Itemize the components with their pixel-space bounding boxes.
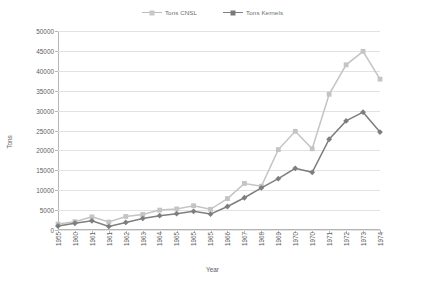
y-tick-label: 50000 xyxy=(6,28,54,35)
x-tick-label: 1970 xyxy=(309,232,316,246)
x-tick-label: 1955 xyxy=(55,232,62,246)
x-tick-label: 1960 xyxy=(72,232,79,246)
legend-line-marker-cnsl xyxy=(142,12,162,13)
x-axis-title: Year xyxy=(0,266,425,273)
data-point-marker xyxy=(174,211,180,217)
data-point-marker xyxy=(378,77,383,82)
y-tick-label: 15000 xyxy=(6,167,54,174)
y-tick-label: 25000 xyxy=(6,127,54,134)
legend-square-icon xyxy=(149,11,154,16)
chart-legend: Tons CNSL Tons Kernels xyxy=(0,9,425,16)
data-point-marker xyxy=(208,207,213,212)
data-point-marker xyxy=(242,181,247,186)
x-tick-label: 1965 xyxy=(173,232,180,246)
x-tick-label: 1966 xyxy=(224,232,231,246)
gridline xyxy=(58,230,380,231)
x-tick-label: 1970 xyxy=(292,232,299,246)
series-line-kernels xyxy=(58,112,380,226)
plot-area xyxy=(58,31,380,230)
y-tick-label: 10000 xyxy=(6,187,54,194)
x-tick-label: 1961 xyxy=(106,232,113,246)
legend-label-kernels: Tons Kernels xyxy=(246,9,283,16)
data-point-marker xyxy=(225,196,230,201)
x-tick-label: 1968 xyxy=(258,232,265,246)
series-line-cnsl xyxy=(58,51,380,224)
x-tick-label: 1969 xyxy=(275,232,282,246)
y-tick-label: 30000 xyxy=(6,107,54,114)
legend-label-cnsl: Tons CNSL xyxy=(165,9,197,16)
data-point-marker xyxy=(310,146,315,151)
data-point-marker xyxy=(123,214,128,219)
data-point-marker xyxy=(208,211,214,217)
y-tick-label: 0 xyxy=(6,227,54,234)
legend-item-tons-cnsl[interactable]: Tons CNSL xyxy=(142,9,197,16)
data-point-marker xyxy=(293,129,298,134)
y-tick-label: 5000 xyxy=(6,207,54,214)
x-tick-label: 1964 xyxy=(156,232,163,246)
data-point-marker xyxy=(174,207,179,212)
x-tick-label: 1972 xyxy=(343,232,350,246)
data-point-marker xyxy=(191,208,197,214)
x-tick-label: 1973 xyxy=(360,232,367,246)
x-tick-label: 1967 xyxy=(241,232,248,246)
data-point-marker xyxy=(191,203,196,208)
x-tick-label: 1961 xyxy=(89,232,96,246)
legend-diamond-icon xyxy=(231,11,236,16)
x-tick-label: 1965 xyxy=(207,232,214,246)
y-tick-label: 35000 xyxy=(6,87,54,94)
data-point-marker xyxy=(157,213,163,219)
x-tick-label: 1974 xyxy=(377,232,384,246)
data-point-marker xyxy=(225,204,231,210)
y-axis-title: Tons xyxy=(6,135,13,149)
data-point-marker xyxy=(361,49,366,54)
x-tick-label: 1962 xyxy=(123,232,130,246)
series-lines xyxy=(58,31,380,230)
data-point-marker xyxy=(327,92,332,97)
data-point-marker xyxy=(276,147,281,152)
data-point-marker xyxy=(123,220,129,226)
data-point-marker xyxy=(309,169,315,175)
y-tick-label: 45000 xyxy=(6,47,54,54)
data-point-marker xyxy=(344,62,349,67)
x-tick-label: 1963 xyxy=(140,232,147,246)
x-tick-label: 1965 xyxy=(190,232,197,246)
legend-item-tons-kernels[interactable]: Tons Kernels xyxy=(223,9,283,16)
line-chart: Tons CNSL Tons Kernels 05000100001500020… xyxy=(0,0,425,283)
x-tick-label: 1971 xyxy=(326,232,333,246)
y-tick-label: 40000 xyxy=(6,67,54,74)
legend-line-marker-kernels xyxy=(223,12,243,13)
data-point-marker xyxy=(157,208,162,213)
